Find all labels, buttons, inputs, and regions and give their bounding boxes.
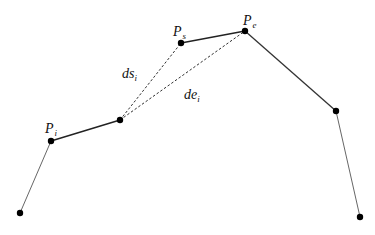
label-ds: dsi <box>122 66 137 83</box>
label-pi: Pi <box>44 121 58 138</box>
label-ds-main: ds <box>122 66 135 81</box>
point-p2 <box>117 117 123 123</box>
point-pi <box>48 138 54 144</box>
label-de-sub: i <box>197 94 200 104</box>
segment-p0-pi <box>20 141 51 213</box>
label-ps-sub: s <box>183 31 187 41</box>
point-pe <box>242 28 248 34</box>
label-ds-sub: i <box>134 73 137 83</box>
segment-ps-pe <box>181 31 245 43</box>
label-ps: Ps <box>172 24 187 41</box>
segment-p5-p6 <box>336 111 360 217</box>
dashed-ds-segment <box>120 43 181 120</box>
point-p0 <box>17 210 23 216</box>
label-ps-main: P <box>172 24 182 39</box>
label-pe: Pe <box>242 13 257 30</box>
label-pe-main: P <box>242 13 252 28</box>
label-pi-main: P <box>44 121 54 136</box>
segment-pi-p2 <box>51 120 120 141</box>
segment-pe-p5 <box>245 31 336 111</box>
label-de-main: de <box>184 87 197 102</box>
point-p5 <box>333 108 339 114</box>
polyline-diagram: Pi Ps Pe dsi dei <box>0 0 375 235</box>
label-pe-sub: e <box>253 20 257 30</box>
label-de: dei <box>184 87 200 104</box>
point-p6 <box>357 214 363 220</box>
label-pi-sub: i <box>55 128 58 138</box>
